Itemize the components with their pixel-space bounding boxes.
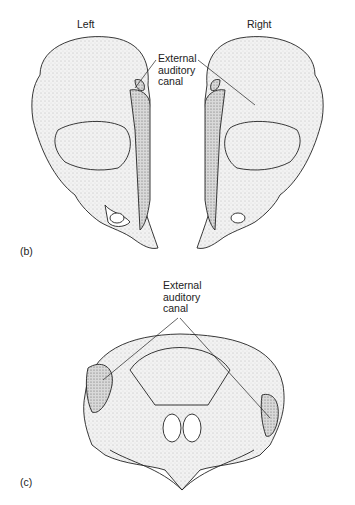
left-label: Left — [77, 19, 95, 31]
right-label: Right — [247, 19, 272, 31]
panel-label-c: (c) — [20, 477, 32, 489]
external-auditory-canal-label-b: External auditory canal — [158, 53, 197, 88]
front-skull — [84, 334, 284, 490]
panel-label-b: (b) — [20, 246, 33, 258]
left-skull — [32, 37, 158, 249]
right-skull — [197, 37, 323, 249]
external-auditory-canal-label-c: External auditory canal — [163, 280, 202, 315]
